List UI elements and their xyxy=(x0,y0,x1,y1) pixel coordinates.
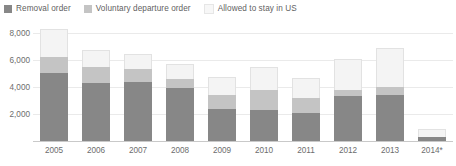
bar-2010[interactable] xyxy=(250,67,278,141)
bar-segment xyxy=(166,88,194,141)
axis-baseline xyxy=(33,141,453,142)
bar-segment xyxy=(208,77,236,95)
bar-segment xyxy=(250,67,278,90)
bar-segment xyxy=(124,69,152,82)
bar-2011[interactable] xyxy=(292,78,320,141)
x-axis-tick-label: 2009 xyxy=(201,146,243,156)
legend-label: Voluntary departure order xyxy=(96,4,191,14)
x-axis: 2005200620072008200920102011201220132014… xyxy=(33,146,453,160)
bar-2008[interactable] xyxy=(166,64,194,141)
legend-item-removal-order[interactable]: Removal order xyxy=(4,4,71,14)
bar-2005[interactable] xyxy=(40,29,68,141)
bar-segment xyxy=(292,98,320,113)
legend-label: Removal order xyxy=(16,4,71,14)
bar-segment xyxy=(376,87,404,95)
x-axis-tick-label: 2008 xyxy=(159,146,201,156)
x-axis-tick-label: 2007 xyxy=(117,146,159,156)
bar-2007[interactable] xyxy=(124,54,152,141)
bar-segment xyxy=(82,67,110,83)
y-axis-tick-label: 4,000 xyxy=(10,82,31,91)
stacked-bar-chart: Removal order Voluntary departure order … xyxy=(0,0,456,166)
legend-swatch-icon xyxy=(4,5,12,13)
bar-segment xyxy=(40,73,68,141)
bar-segment xyxy=(124,54,152,70)
legend-swatch-icon xyxy=(204,4,214,14)
x-axis-tick-label: 2011 xyxy=(285,146,327,156)
chart-legend: Removal order Voluntary departure order … xyxy=(4,2,310,16)
bar-segment xyxy=(208,95,236,109)
bar-2013[interactable] xyxy=(376,48,404,141)
y-axis: 2,0004,0006,0008,000 xyxy=(0,22,30,141)
legend-item-voluntary-departure-order[interactable]: Voluntary departure order xyxy=(84,4,191,14)
bar-2012[interactable] xyxy=(334,59,362,141)
y-axis-tick-label: 8,000 xyxy=(10,28,31,37)
bar-segment xyxy=(292,113,320,141)
bar-segment xyxy=(82,83,110,141)
bar-segment xyxy=(418,137,446,141)
bar-2014[interactable] xyxy=(418,129,446,141)
bar-segment xyxy=(250,110,278,141)
x-axis-tick-label: 2005 xyxy=(33,146,75,156)
bar-segment xyxy=(166,79,194,88)
x-axis-tick-label: 2006 xyxy=(75,146,117,156)
legend-label: Allowed to stay in US xyxy=(218,4,297,14)
bar-segment xyxy=(40,57,68,73)
bar-segment xyxy=(250,90,278,110)
x-axis-tick-label: 2014* xyxy=(411,146,453,156)
y-axis-tick-label: 6,000 xyxy=(10,55,31,64)
x-axis-tick-label: 2013 xyxy=(369,146,411,156)
x-axis-tick-label: 2010 xyxy=(243,146,285,156)
bar-segment xyxy=(334,59,362,90)
bar-segment xyxy=(124,82,152,141)
bar-segment xyxy=(376,95,404,141)
bar-segment xyxy=(334,96,362,141)
bar-segment xyxy=(166,64,194,79)
legend-item-allowed-to-stay[interactable]: Allowed to stay in US xyxy=(204,4,297,14)
bar-segment xyxy=(292,78,320,98)
y-axis-tick-label: 2,000 xyxy=(10,109,31,118)
legend-swatch-icon xyxy=(84,5,92,13)
bar-segment xyxy=(418,129,446,137)
bar-segment xyxy=(82,50,110,66)
bar-segment xyxy=(40,29,68,57)
plot-area xyxy=(33,22,453,141)
bar-segment xyxy=(208,109,236,141)
bar-segment xyxy=(376,48,404,87)
gridline xyxy=(33,33,453,34)
x-axis-tick-label: 2012 xyxy=(327,146,369,156)
bar-2009[interactable] xyxy=(208,77,236,141)
bar-segment xyxy=(334,90,362,97)
bar-2006[interactable] xyxy=(82,50,110,141)
